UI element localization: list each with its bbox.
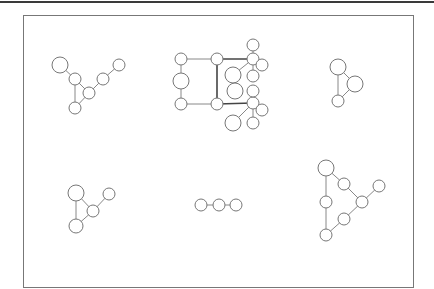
graph-node — [52, 57, 68, 73]
graph-node — [320, 229, 332, 241]
graph-node — [211, 98, 223, 110]
graph-4 — [68, 185, 115, 233]
graph-node — [83, 87, 95, 99]
graph-node — [225, 67, 241, 83]
graph-node — [175, 98, 187, 110]
graph-node — [247, 70, 259, 82]
graph-node — [213, 199, 225, 211]
graph-node — [247, 85, 259, 97]
graph-node — [68, 185, 84, 201]
graph-node — [256, 59, 268, 71]
graph-node — [247, 117, 259, 129]
graph-node — [247, 39, 259, 51]
graph-node — [320, 196, 332, 208]
graph-node — [318, 160, 334, 176]
graph-node — [227, 83, 243, 99]
graph-node — [230, 199, 242, 211]
graph-node — [69, 102, 81, 114]
graph-node — [103, 188, 115, 200]
graph-6 — [318, 160, 385, 241]
graph-node — [332, 95, 344, 107]
graph-node — [97, 73, 109, 85]
graph-node — [173, 73, 189, 89]
graph-node — [211, 53, 223, 65]
graph-node — [356, 196, 368, 208]
graph-5 — [195, 199, 242, 211]
graph-node — [256, 104, 268, 116]
graph-node — [195, 199, 207, 211]
graph-node — [69, 219, 83, 233]
graph-diagram-canvas — [0, 0, 434, 289]
graph-node — [330, 59, 346, 75]
graph-collection — [52, 39, 385, 241]
graph-node — [338, 213, 350, 225]
graph-node — [225, 115, 241, 131]
graph-node — [113, 59, 125, 71]
graph-node — [338, 178, 350, 190]
graph-node — [87, 205, 99, 217]
graph-node — [347, 76, 363, 92]
graph-2 — [173, 39, 268, 131]
graph-node — [69, 73, 81, 85]
graph-3 — [330, 59, 363, 107]
graph-node — [373, 180, 385, 192]
graph-1 — [52, 57, 125, 114]
graph-node — [175, 53, 187, 65]
